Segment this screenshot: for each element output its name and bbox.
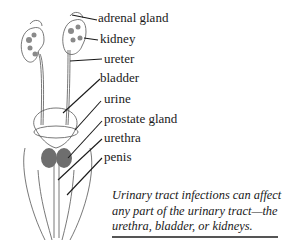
label-penis: penis <box>104 150 131 164</box>
label-bladder: bladder <box>100 71 139 85</box>
label-prostate-gland: prostate gland <box>104 112 177 126</box>
label-ureter: ureter <box>104 52 134 66</box>
prostate-icon <box>41 148 72 168</box>
label-urine: urine <box>104 92 131 106</box>
right-kidney-icon <box>63 20 86 55</box>
figure-caption: Urinary tract infections can affect any … <box>112 188 284 235</box>
label-kidney: kidney <box>100 32 135 46</box>
caption-rule <box>112 236 278 238</box>
left-kidney-icon <box>21 28 44 63</box>
urinary-tract-diagram: adrenal gland kidney ureter bladder urin… <box>0 0 285 244</box>
label-urethra: urethra <box>104 131 141 145</box>
label-adrenal-gland: adrenal gland <box>98 11 168 25</box>
